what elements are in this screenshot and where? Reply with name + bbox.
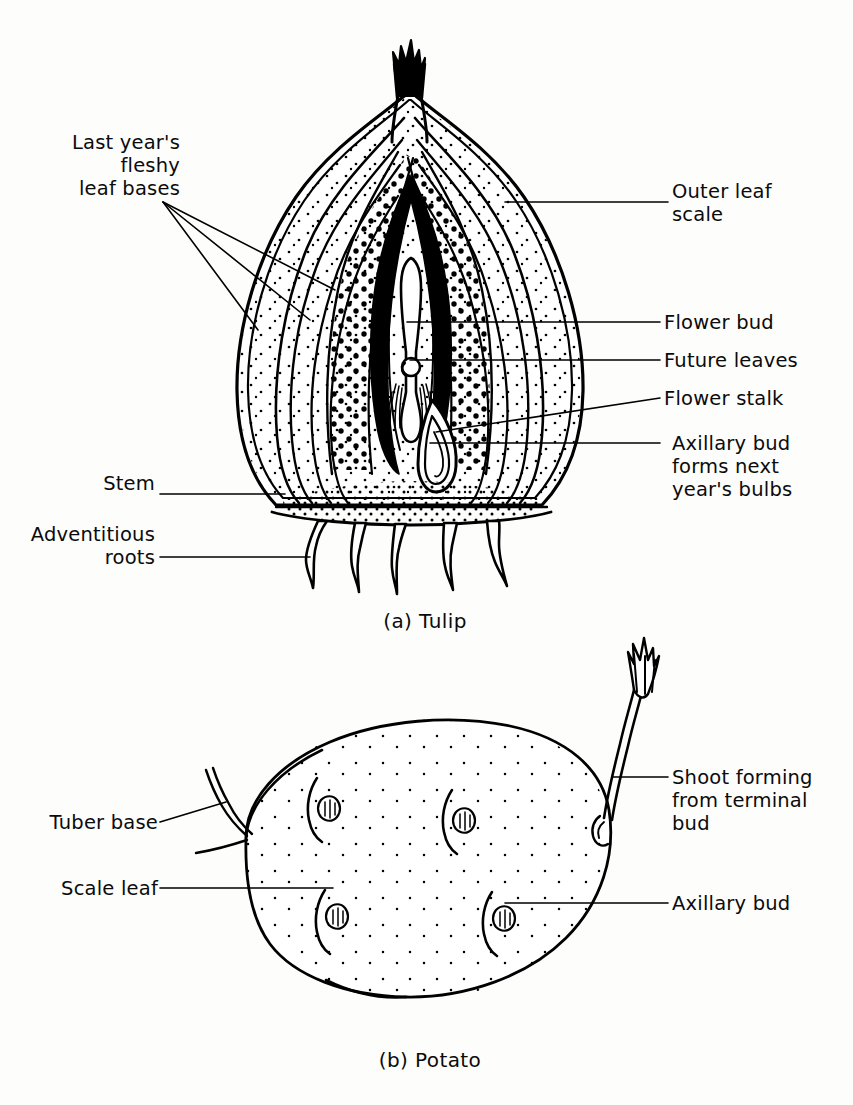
leader-tuber-base	[160, 802, 226, 822]
label-stem: Stem	[20, 472, 155, 495]
label-adventitious-roots: Adventitious roots	[8, 523, 155, 569]
potato-tuber-drawing	[196, 638, 659, 1010]
label-shoot-terminal-bud: Shoot forming from terminal bud	[672, 766, 813, 835]
adventitious-roots	[306, 521, 507, 594]
caption-potato: (b) Potato	[320, 1048, 540, 1072]
label-tuber-base: Tuber base	[16, 811, 158, 834]
label-axillary-bud-tulip: Axillary bud forms next year's bulbs	[672, 432, 792, 501]
diagram-page: Last year's fleshy leaf bases Stem Adven…	[0, 0, 853, 1105]
tulip-shoot-tip	[393, 40, 425, 98]
label-fleshy-leaf-bases: Last year's fleshy leaf bases	[20, 131, 180, 200]
label-scale-leaf: Scale leaf	[20, 877, 158, 900]
tulip-bulb-drawing	[230, 40, 590, 594]
label-axillary-bud-potato: Axillary bud	[672, 892, 790, 915]
label-future-leaves: Future leaves	[664, 349, 798, 372]
label-outer-leaf-scale: Outer leaf scale	[672, 180, 772, 226]
label-flower-stalk: Flower stalk	[664, 387, 784, 410]
tuber-base-stolon	[196, 768, 252, 853]
caption-tulip: (a) Tulip	[320, 609, 530, 633]
label-flower-bud: Flower bud	[664, 311, 774, 334]
